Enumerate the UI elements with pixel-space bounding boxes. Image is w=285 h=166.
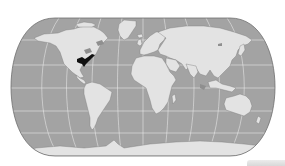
corner-bar xyxy=(247,160,285,166)
world-map xyxy=(0,0,285,166)
world-map-svg xyxy=(0,0,285,166)
